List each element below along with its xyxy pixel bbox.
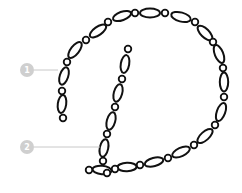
- callout-2: 2: [20, 140, 100, 154]
- callout-1: 1: [20, 63, 58, 77]
- diagram-canvas: 1 2: [0, 0, 242, 193]
- inner-stem-stroke: [98, 46, 131, 177]
- outer-arc-stroke: [57, 9, 229, 176]
- callout-2-label: 2: [24, 143, 30, 152]
- callout-1-label: 1: [24, 66, 30, 75]
- chain-letter-diagram: 1 2: [0, 0, 242, 193]
